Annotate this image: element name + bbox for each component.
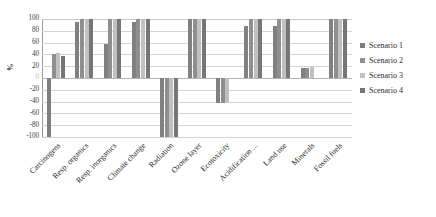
- bar[interactable]: [197, 19, 201, 78]
- bar[interactable]: [61, 56, 65, 78]
- legend-swatch-icon: [360, 88, 365, 93]
- bar[interactable]: [277, 19, 281, 78]
- bar[interactable]: [141, 19, 145, 78]
- bar[interactable]: [221, 78, 225, 103]
- bar[interactable]: [52, 54, 56, 78]
- bar[interactable]: [117, 19, 121, 78]
- bar[interactable]: [301, 68, 305, 78]
- bar[interactable]: [282, 19, 286, 78]
- legend-swatch-icon: [360, 58, 365, 63]
- bar-group: [211, 19, 239, 137]
- y-axis-tick-label: -60: [3, 110, 39, 117]
- y-axis-tick-label: 0: [3, 74, 39, 81]
- legend-swatch-icon: [360, 73, 365, 78]
- bar[interactable]: [244, 26, 248, 78]
- bar[interactable]: [338, 19, 342, 78]
- legend-item[interactable]: Scenario 3: [360, 68, 436, 83]
- bar[interactable]: [310, 67, 314, 78]
- legend-item[interactable]: Scenario 2: [360, 53, 436, 68]
- legend-label: Scenario 3: [369, 71, 403, 80]
- bar[interactable]: [225, 78, 229, 102]
- bar[interactable]: [146, 19, 150, 78]
- bar-group: [155, 19, 183, 137]
- bar[interactable]: [343, 19, 347, 78]
- bar[interactable]: [56, 53, 60, 78]
- legend-label: Scenario 2: [369, 56, 403, 65]
- bars-layer: [42, 19, 352, 137]
- gridline: [42, 137, 352, 138]
- bar[interactable]: [104, 44, 108, 78]
- bar-group: [239, 19, 267, 137]
- y-axis-tick-label: 20: [3, 63, 39, 70]
- bar[interactable]: [165, 78, 169, 137]
- y-axis-tick-label: 80: [3, 27, 39, 34]
- bar[interactable]: [249, 19, 253, 78]
- legend-swatch-icon: [360, 43, 365, 48]
- legend-item[interactable]: Scenario 4: [360, 83, 436, 98]
- y-axis-tick-label: 100: [3, 15, 39, 22]
- bar[interactable]: [216, 78, 220, 103]
- bar[interactable]: [113, 19, 117, 78]
- bar[interactable]: [305, 68, 309, 78]
- bar[interactable]: [334, 19, 338, 78]
- bar[interactable]: [80, 19, 84, 78]
- y-axis-tick-label: -40: [3, 98, 39, 105]
- y-axis-tick-label: -80: [3, 122, 39, 129]
- bar[interactable]: [75, 22, 79, 78]
- bar-chart: % 100806040200-20-40-60-80-100 Carcinoge…: [0, 0, 436, 217]
- bar-group: [70, 19, 98, 137]
- legend-label: Scenario 1: [369, 41, 403, 50]
- bar[interactable]: [136, 19, 140, 78]
- bar[interactable]: [258, 19, 262, 78]
- legend-label: Scenario 4: [369, 86, 403, 95]
- plot-area: [42, 19, 352, 137]
- bar[interactable]: [47, 78, 51, 137]
- bar[interactable]: [188, 19, 192, 78]
- legend-item[interactable]: Scenario 1: [360, 38, 436, 53]
- bar-group: [267, 19, 295, 137]
- bar-group: [324, 19, 352, 137]
- bar[interactable]: [169, 78, 173, 137]
- bar[interactable]: [89, 19, 93, 78]
- bar-group: [183, 19, 211, 137]
- bar[interactable]: [202, 19, 206, 78]
- y-axis-tick-label: 60: [3, 39, 39, 46]
- bar-group: [296, 19, 324, 137]
- chart-legend: Scenario 1Scenario 2Scenario 3Scenario 4: [360, 38, 436, 98]
- bar[interactable]: [286, 19, 290, 78]
- bar[interactable]: [273, 26, 277, 78]
- bar-group: [127, 19, 155, 137]
- y-axis-tick-label: -20: [3, 86, 39, 93]
- bar[interactable]: [254, 19, 258, 78]
- bar[interactable]: [174, 78, 178, 137]
- bar[interactable]: [160, 78, 164, 137]
- bar-group: [42, 19, 70, 137]
- y-axis-tick-labels: 100806040200-20-40-60-80-100: [0, 19, 39, 137]
- y-axis-tick-label: -100: [3, 133, 39, 140]
- bar[interactable]: [329, 19, 333, 78]
- bar[interactable]: [108, 19, 112, 78]
- bar[interactable]: [193, 19, 197, 78]
- bar[interactable]: [132, 22, 136, 78]
- bar[interactable]: [85, 19, 89, 78]
- y-axis-tick-label: 40: [3, 51, 39, 58]
- bar-group: [98, 19, 126, 137]
